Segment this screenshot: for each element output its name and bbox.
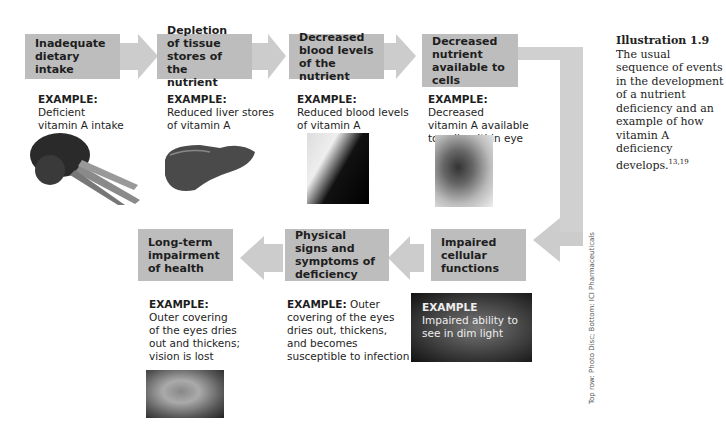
liver-image [160,140,260,195]
damaged-eye-image [146,370,224,418]
example-text: Impaired ability to see in dim light [422,314,518,340]
example-label: EXAMPLE: [297,93,409,106]
step-impaired-cellular: Impaired cellular functions [431,229,526,281]
figure-caption: Illustration 1.9 The usual sequence of e… [616,34,726,172]
example-blood: EXAMPLE: Reduced blood levels of vitamin… [297,93,409,132]
example-label: EXAMPLE: [149,298,240,311]
step-long-term-impairment: Long-term impairment of health [138,229,233,281]
example-label: EXAMPLE [422,301,518,314]
example-label: EXAMPLE: [38,93,124,106]
caption-refs: 13,19 [669,158,689,166]
caption-title: Illustration 1.9 [616,34,726,48]
example-text: Deficient vitamin A intake [38,106,124,132]
caption-text: The usual sequence of events in the deve… [616,48,724,172]
example-text: Reduced blood levels of vitamin A [297,106,409,132]
example-text: Reduced liver stores of vitamin A [167,106,274,132]
step-inadequate-intake: Inadequate dietary intake [25,34,120,79]
example-liver: EXAMPLE: Reduced liver stores of vitamin… [167,93,274,132]
eye-closeup-image [435,135,493,207]
step-cell-availability: Decreased nutrient available to cells [422,34,518,87]
step-physical-signs: Physical signs and symptoms of deficienc… [285,229,389,281]
dim-light-image: EXAMPLE Impaired ability to see in dim l… [411,293,532,362]
carrots-image [20,130,140,205]
step-tissue-depletion: Depletion of tissue stores of the nutrie… [157,34,252,79]
example-physical-signs: EXAMPLE: Outer covering of the eyes drie… [287,298,409,363]
photo-credit: Top row: Photo Disc; Bottom: ICI Pharmac… [588,232,596,404]
example-label: EXAMPLE: [287,298,347,310]
blood-test-image [307,133,369,204]
example-text: Outer covering of the eyes dries out and… [149,311,240,363]
example-intake: EXAMPLE: Deficient vitamin A intake [38,93,124,132]
example-label: EXAMPLE: [428,93,529,106]
step-blood-levels: Decreased blood levels of the nutrient [289,34,384,79]
example-label: EXAMPLE: [167,93,274,106]
example-dim-light: EXAMPLE Impaired ability to see in dim l… [422,301,518,340]
example-long-term: EXAMPLE: Outer covering of the eyes drie… [149,298,240,363]
